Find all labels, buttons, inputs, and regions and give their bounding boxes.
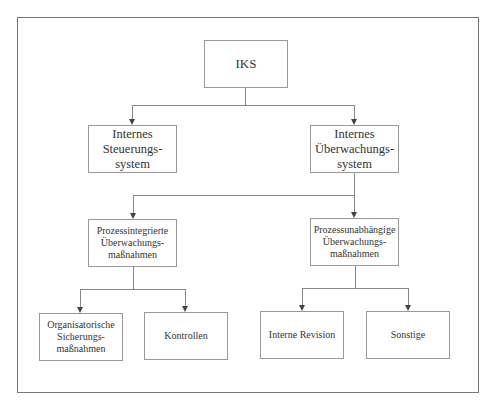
connector	[80, 289, 81, 307]
node-prozessunabhaengig: Prozessunabhängige Überwachungs- maßnahm…	[310, 218, 399, 266]
node-sonstige: Sonstige	[366, 311, 450, 359]
node-kontrollen: Kontrollen	[144, 312, 228, 360]
connector	[354, 105, 355, 119]
node-label: Interne Revision	[269, 329, 335, 341]
node-ueberwachungssystem: Internes Überwachungs- system	[310, 125, 399, 173]
connector	[132, 105, 355, 106]
connector	[185, 289, 186, 306]
connector	[132, 105, 133, 119]
node-label: Prozessunabhängige Überwachungs- maßnahm…	[314, 224, 396, 260]
connector	[408, 288, 409, 305]
node-label: Sonstige	[391, 329, 425, 341]
connector	[133, 195, 134, 213]
node-label: Prozessintegrierte Überwachungs- maßnahm…	[97, 225, 169, 261]
node-label: Internes Überwachungs- system	[315, 127, 394, 172]
node-organisatorisch: Organisatorische Sicherungs- maßnahmen	[39, 313, 123, 361]
connector	[133, 267, 134, 289]
node-steuerungssystem: Internes Steuerungs- system	[88, 125, 177, 173]
connector	[302, 288, 303, 305]
connector	[355, 266, 356, 288]
connector	[302, 288, 409, 289]
node-iks: IKS	[204, 40, 288, 88]
node-label: Organisatorische Sicherungs- maßnahmen	[47, 319, 115, 355]
connector	[354, 195, 355, 212]
node-interne-revision: Interne Revision	[260, 311, 344, 359]
node-label: Internes Steuerungs- system	[103, 127, 163, 172]
node-label: Kontrollen	[164, 330, 207, 342]
node-label: IKS	[236, 56, 257, 72]
connector	[354, 173, 355, 195]
node-prozessintegriert: Prozessintegrierte Überwachungs- maßnahm…	[88, 219, 177, 267]
connector	[245, 88, 246, 105]
connector	[80, 289, 186, 290]
connector	[133, 195, 355, 196]
